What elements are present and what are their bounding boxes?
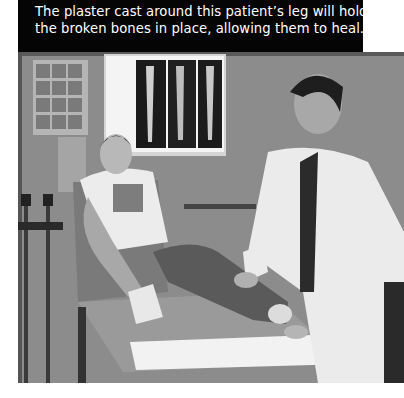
caption-box: The plaster cast around this patient’s l… <box>18 0 363 53</box>
photo-doctor-applying-cast <box>18 52 404 383</box>
caption-line-1: The plaster cast around this patient’s l… <box>35 4 363 21</box>
caption-line-2: the broken bones in place, allowing them… <box>35 21 363 38</box>
